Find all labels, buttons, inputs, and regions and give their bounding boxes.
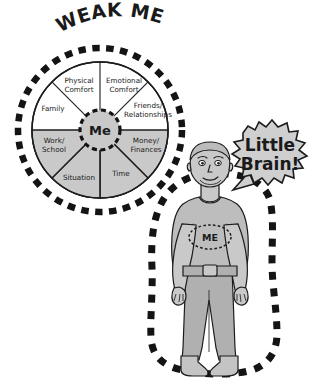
wheel-segment-situation-label-1: Situation — [63, 173, 95, 182]
weak-me-wheel: Physical Comfort Emotional Comfort Frien… — [32, 62, 172, 198]
wheel-segment-friends-relationships-label-1: Friends/ — [134, 101, 163, 110]
wheel-segment-money-finances-label-2: Finances — [130, 145, 161, 154]
wheel-segment-emotional-comfort[interactable]: Emotional Comfort — [106, 76, 142, 94]
wheel-segment-work-school-label-1: Work/ — [44, 136, 65, 145]
figure-pupil-left — [201, 162, 204, 165]
figure-shoe-left — [181, 356, 208, 376]
speech-bubble-line-2: Brain! — [241, 154, 300, 174]
figure-ear-right — [229, 163, 233, 171]
wheel-segment-time[interactable]: Time — [111, 169, 130, 178]
wheel-segment-time-label-1: Time — [111, 169, 130, 178]
wheel-segment-emotional-comfort-label-1: Emotional — [106, 76, 142, 85]
wheel-segment-friends-relationships-label-2: Relationships — [124, 110, 172, 119]
illustration-canvas: WEAK ME — [0, 0, 331, 389]
figure-shirt-me-label: ME — [202, 232, 218, 243]
figure-shoe-right — [210, 356, 238, 376]
wheel-segment-family[interactable]: Family — [41, 104, 65, 113]
wheel-segment-family-label-1: Family — [41, 104, 65, 113]
page-title: WEAK ME — [52, 0, 167, 36]
figure-pupil-right — [217, 162, 220, 165]
page-title-text: WEAK ME — [52, 0, 167, 36]
page-title-label: WEAK ME — [52, 0, 167, 36]
wheel-segment-money-finances[interactable]: Money/ Finances — [130, 136, 161, 154]
speech-bubble[interactable]: Little Brain! — [232, 120, 307, 190]
wheel-segment-work-school-label-2: School — [42, 145, 66, 154]
weak-me-illustration: WEAK ME — [0, 0, 331, 389]
wheel-segment-situation[interactable]: Situation — [63, 173, 95, 182]
wheel-segment-physical-comfort-label-1: Physical — [64, 76, 93, 85]
wheel-segment-money-finances-label-1: Money/ — [133, 136, 160, 145]
wheel-segment-physical-comfort-label-2: Comfort — [64, 85, 93, 94]
figure-hand-right — [234, 287, 248, 305]
wheel-center-label: Me — [89, 123, 111, 138]
wheel-segment-emotional-comfort-label-2: Comfort — [109, 85, 138, 94]
speech-bubble-line-1: Little — [245, 135, 295, 155]
wheel-segment-work-school[interactable]: Work/ School — [42, 136, 66, 154]
figure-ear-left — [187, 163, 191, 171]
wheel-segment-physical-comfort[interactable]: Physical Comfort — [64, 76, 93, 94]
figure-hand-left — [172, 287, 186, 305]
figure-belt-buckle — [203, 265, 217, 276]
